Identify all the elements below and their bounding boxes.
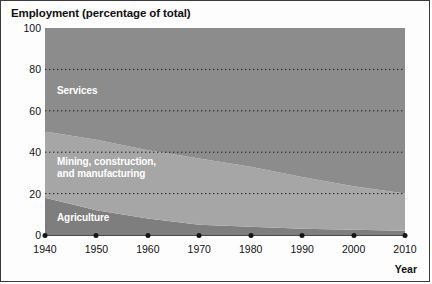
area-series-group: [45, 28, 405, 235]
x-tick-dot-1940: [43, 233, 48, 238]
x-tick-label-1990: 1990: [290, 243, 313, 255]
plot-area: [45, 28, 405, 235]
y-tick-label-80: 80: [9, 63, 41, 75]
y-tick-label-40: 40: [9, 146, 41, 158]
x-tick-label-1940: 1940: [33, 243, 56, 255]
x-tick-label-1950: 1950: [85, 243, 108, 255]
x-tick-label-1980: 1980: [239, 243, 262, 255]
chart-title: Employment (percentage of total): [11, 7, 191, 19]
x-tick-dot-1980: [248, 233, 253, 238]
series-label-services: Services: [57, 85, 97, 97]
x-tick-dot-1950: [94, 233, 99, 238]
y-tick-label-60: 60: [9, 105, 41, 117]
y-tick-label-100: 100: [9, 22, 41, 34]
x-axis-label: Year: [395, 263, 417, 275]
x-tick-label-1970: 1970: [188, 243, 211, 255]
y-tick-label-0: 0: [9, 229, 41, 241]
chart-frame: Employment (percentage of total) 0204060…: [0, 0, 430, 282]
x-tick-label-2000: 2000: [342, 243, 365, 255]
series-label-line2: and manufacturing: [57, 168, 145, 179]
x-tick-dot-2010: [403, 233, 408, 238]
x-axis-ticks: 19401950196019701980199020002010: [45, 236, 406, 258]
series-label-line1: Mining, construction,: [57, 156, 156, 167]
x-tick-dot-1990: [300, 233, 305, 238]
x-tick-label-1960: 1960: [136, 243, 159, 255]
series-label-agriculture: Agriculture: [57, 212, 109, 224]
x-tick-dot-1960: [145, 233, 150, 238]
y-axis-ticks: 020406080100: [5, 28, 41, 235]
y-tick-label-20: 20: [9, 188, 41, 200]
x-tick-dot-2000: [351, 233, 356, 238]
stacked-area-plot: [45, 28, 405, 235]
series-label-mining-construction-manufacturing: Mining, construction, and manufacturing: [57, 156, 156, 180]
x-tick-dot-1970: [197, 233, 202, 238]
x-tick-label-2010: 2010: [393, 243, 416, 255]
